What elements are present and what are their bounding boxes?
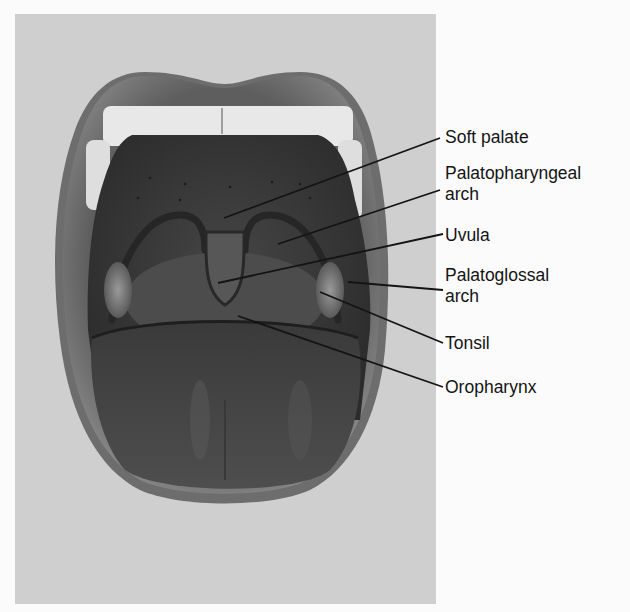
label-tonsil: Tonsil (445, 333, 490, 354)
label-soft-palate: Soft palate (445, 127, 529, 148)
right-tonsil (316, 262, 344, 318)
label-text: Soft palate (445, 127, 529, 147)
label-text: Uvula (445, 225, 490, 245)
label-text: Tonsil (445, 333, 490, 353)
label-palatopharyngeal-arch: Palatopharyngeal arch (445, 163, 581, 205)
label-text: Palatopharyngeal (445, 163, 581, 183)
label-uvula: Uvula (445, 225, 490, 246)
label-text: Oropharynx (445, 377, 536, 397)
label-text-line2: arch (445, 184, 581, 205)
label-palatoglossal-arch: Palatoglossal arch (445, 265, 549, 307)
label-oropharynx: Oropharynx (445, 377, 536, 398)
label-text-line2: arch (445, 286, 549, 307)
tongue (91, 322, 360, 489)
left-tonsil (104, 262, 132, 318)
label-text: Palatoglossal (445, 265, 549, 285)
